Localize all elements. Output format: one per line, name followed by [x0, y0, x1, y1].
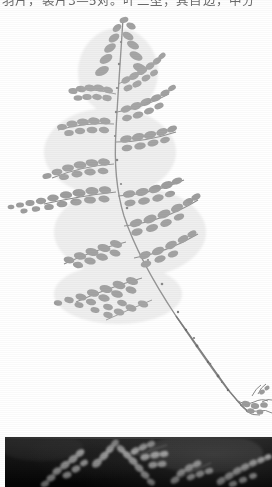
fern-specimen-illustration: [0, 12, 272, 432]
fern-specimen-figure: [0, 12, 272, 432]
body-text-line: 羽片，裂片3—5对。叶二型；其自边，中分: [2, 0, 270, 9]
scanned-page: 羽片，裂片3—5对。叶二型；其自边，中分: [0, 0, 272, 487]
clipped-text-strip: 羽片，裂片3—5对。叶二型；其自边，中分: [0, 0, 272, 10]
dark-photo-top-edge: [5, 437, 272, 439]
fern-detail-dark-figure: [5, 437, 272, 487]
fern-detail-dark-illustration: [5, 437, 272, 487]
